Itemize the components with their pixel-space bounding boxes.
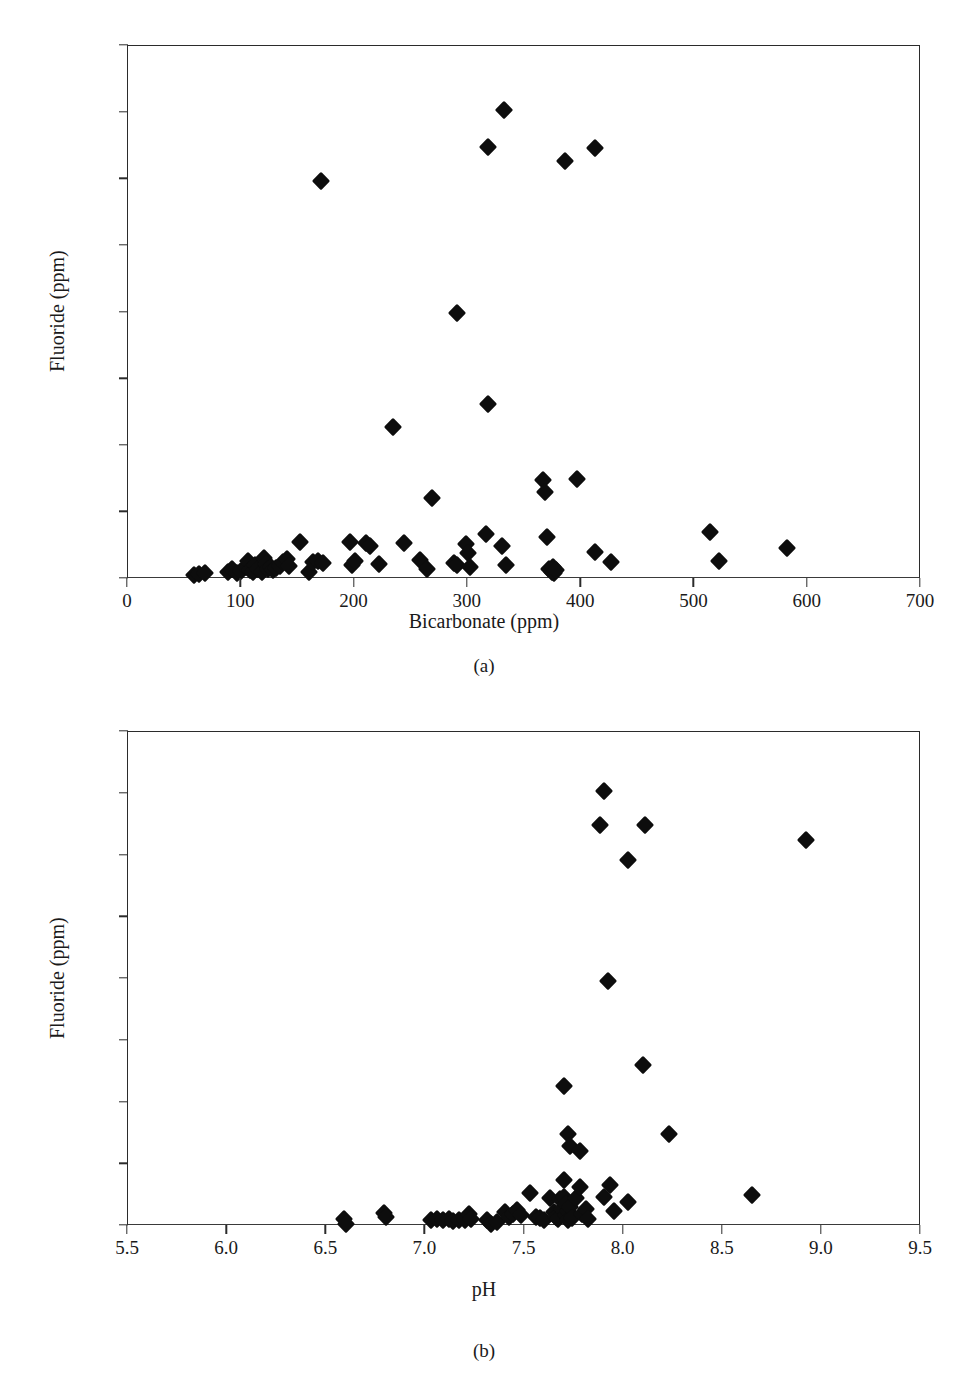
data-point-marker: [495, 101, 513, 119]
panel-caption-b: (b): [0, 1340, 968, 1362]
panel-caption-a: (a): [0, 655, 968, 677]
data-point-marker: [605, 1202, 623, 1220]
y-tick-mark: [119, 730, 128, 731]
x-tick-label: 700: [906, 590, 935, 612]
x-tick-label: 0: [122, 590, 132, 612]
y-tick-mark: [119, 1101, 128, 1102]
data-point-marker: [636, 816, 654, 834]
x-tick-mark: [693, 578, 694, 587]
data-point-marker: [555, 1077, 573, 1095]
x-tick-mark: [579, 578, 580, 587]
data-point-marker: [618, 851, 636, 869]
x-tick-label: 6.0: [214, 1237, 238, 1259]
x-tick-mark: [353, 578, 354, 587]
x-tick-label: 6.5: [313, 1237, 337, 1259]
x-tick-label: 8.5: [710, 1237, 734, 1259]
y-axis-title-a: Fluoride (ppm): [46, 250, 69, 372]
y-tick-mark: [119, 1163, 128, 1164]
data-point-marker: [743, 1185, 761, 1203]
figure-container: 0.002.004.006.008.0010.0012.0014.0016.00…: [0, 0, 968, 1397]
x-tick-label: 200: [339, 590, 368, 612]
x-tick-mark: [820, 1225, 821, 1234]
data-point-marker: [311, 172, 329, 190]
data-point-marker: [395, 534, 413, 552]
x-tick-mark: [424, 1225, 425, 1234]
data-point-marker: [556, 152, 574, 170]
x-axis-title-a: Bicarbonate (ppm): [0, 610, 968, 633]
y-tick-mark: [119, 1039, 128, 1040]
data-point-marker: [479, 137, 497, 155]
data-point-marker: [710, 551, 728, 569]
x-tick-label: 8.0: [611, 1237, 635, 1259]
data-point-marker: [586, 138, 604, 156]
x-tick-label: 500: [679, 590, 708, 612]
y-tick-mark: [119, 977, 128, 978]
x-tick-mark: [466, 578, 467, 587]
x-tick-label: 9.5: [908, 1237, 932, 1259]
y-tick-mark: [119, 377, 128, 378]
data-point-marker: [461, 558, 479, 576]
data-point-marker: [701, 522, 719, 540]
data-point-marker: [291, 533, 309, 551]
x-tick-mark: [919, 1225, 920, 1234]
y-tick-mark: [119, 178, 128, 179]
x-tick-label: 7.0: [413, 1237, 437, 1259]
y-tick-mark: [119, 311, 128, 312]
data-point-marker: [567, 470, 585, 488]
x-axis-title-b: pH: [0, 1278, 968, 1301]
plot-area-b: [127, 731, 920, 1225]
data-point-marker: [493, 537, 511, 555]
data-point-marker: [778, 539, 796, 557]
data-point-marker: [477, 525, 495, 543]
y-axis-title-b: Fluoride (ppm): [46, 917, 69, 1039]
x-tick-mark: [806, 578, 807, 587]
x-tick-label: 9.0: [809, 1237, 833, 1259]
data-point-marker: [595, 782, 613, 800]
y-tick-mark: [119, 444, 128, 445]
y-tick-mark: [119, 111, 128, 112]
y-tick-mark: [119, 854, 128, 855]
x-tick-label: 300: [453, 590, 482, 612]
y-tick-mark: [119, 44, 128, 45]
x-tick-label: 100: [226, 590, 255, 612]
x-tick-mark: [622, 1225, 623, 1234]
x-tick-mark: [721, 1225, 722, 1234]
x-tick-mark: [523, 1225, 524, 1234]
x-tick-label: 400: [566, 590, 595, 612]
plot-area-a: [127, 45, 920, 578]
x-tick-mark: [126, 1225, 127, 1234]
data-point-marker: [422, 489, 440, 507]
data-point-marker: [538, 528, 556, 546]
data-point-marker: [599, 971, 617, 989]
data-point-marker: [479, 395, 497, 413]
data-point-marker: [521, 1183, 539, 1201]
data-point-marker: [536, 483, 554, 501]
data-point-marker: [797, 831, 815, 849]
x-tick-mark: [240, 578, 241, 587]
x-tick-mark: [919, 578, 920, 587]
panel-a: 0.002.004.006.008.0010.0012.0014.0016.00…: [0, 0, 968, 700]
x-tick-label: 5.5: [115, 1237, 139, 1259]
data-point-marker: [497, 556, 515, 574]
x-tick-label: 7.5: [512, 1237, 536, 1259]
data-point-marker: [384, 418, 402, 436]
data-point-marker: [591, 816, 609, 834]
x-tick-mark: [126, 578, 127, 587]
data-point-marker: [601, 552, 619, 570]
data-point-marker: [447, 304, 465, 322]
data-point-marker: [370, 555, 388, 573]
x-tick-mark: [325, 1225, 326, 1234]
data-point-marker: [660, 1125, 678, 1143]
x-tick-mark: [225, 1225, 226, 1234]
panel-b: 0.002.004.006.008.0010.0012.0014.0016.00…: [0, 700, 968, 1397]
data-point-marker: [586, 543, 604, 561]
x-tick-label: 600: [792, 590, 821, 612]
y-tick-mark: [119, 792, 128, 793]
data-point-marker: [634, 1056, 652, 1074]
y-tick-mark: [119, 916, 128, 917]
y-tick-mark: [119, 244, 128, 245]
y-tick-mark: [119, 511, 128, 512]
